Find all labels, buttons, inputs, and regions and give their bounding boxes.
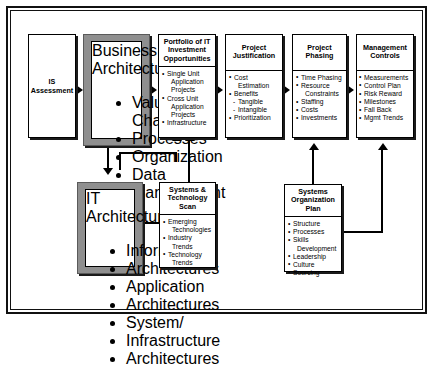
list-item: Application [126, 278, 134, 296]
list-item: Milestones [359, 98, 411, 106]
list-item: Culture [288, 261, 339, 269]
box-project-phasing[interactable]: Project Phasing Time Phasing Resource Co… [292, 34, 347, 138]
list-item: Infrastructure [126, 332, 134, 350]
portfolio-title: Portfolio of IT Investment Opportunities [159, 35, 215, 67]
business-architectures-title: Business Architectures [92, 42, 141, 78]
list-item: Measurements [359, 74, 411, 82]
list-item: Structure [288, 220, 339, 228]
list-item: Technology [163, 251, 213, 259]
list-item: Intangible [229, 106, 280, 114]
connector-line-sop-up [312, 150, 314, 184]
list-item: Control Plan [359, 82, 411, 90]
list-item: Architectures [126, 296, 134, 314]
connector-arrow-portfolio-to-justification [216, 85, 223, 95]
list-item: Application [162, 103, 213, 111]
it-architectures-list: Information Architectures Application Ar… [86, 242, 134, 368]
connector-line-sop-right [344, 231, 383, 233]
portfolio-list: Single Unit Application Projects Cross U… [159, 67, 215, 129]
project-phasing-list: Time Phasing Resource Constraints Staffi… [293, 71, 346, 125]
list-item: Industry [163, 234, 213, 242]
list-item: Prioritization [229, 114, 280, 122]
connector-line-sop-to-controls-up [381, 150, 383, 233]
systems-org-plan-list: Structure Processes Skills Development L… [285, 217, 341, 279]
list-item: Resource [296, 82, 344, 90]
list-item: Architectures [126, 260, 134, 278]
list-item: Organization [132, 148, 141, 166]
list-item: Time Phasing [296, 74, 344, 82]
box-business-architectures[interactable]: Business Architectures Value Chains Proc… [83, 34, 150, 146]
list-item: Costs [296, 106, 344, 114]
connector-arrow-is-to-business [76, 85, 83, 95]
list-item: Leadership [288, 253, 339, 261]
it-architectures-title: IT Architectures [86, 190, 134, 226]
connector-arrow-justification-to-phasing [283, 85, 290, 95]
list-item: Single Unit [162, 70, 213, 78]
list-item: Processes [132, 130, 141, 148]
connector-arrow-phasing-to-controls [347, 85, 354, 95]
list-item: Emerging [163, 218, 213, 226]
box-management-controls[interactable]: Management Controls Measurements Control… [356, 34, 414, 138]
list-item: Projects [162, 86, 213, 94]
tech-scan-list: Emerging Technologies Industry Trends Te… [160, 215, 215, 269]
connector-arrow-sop-to-controls [378, 143, 388, 150]
list-item: Technologies [163, 226, 213, 234]
list-item: Application [162, 78, 213, 86]
project-justification-title: Project Justification [226, 35, 282, 71]
project-phasing-title: Project Phasing [293, 35, 346, 71]
list-item: Risk Reward [359, 90, 411, 98]
list-item: Skills [288, 236, 339, 244]
project-justification-list: Cost Estimation Benefits Tangible Intang… [226, 71, 282, 125]
list-item: Staffing [296, 98, 344, 106]
box-portfolio-it-investment[interactable]: Portfolio of IT Investment Opportunities… [158, 34, 216, 138]
box-systems-organization-plan[interactable]: Systems Organization Plan Structure Proc… [284, 184, 342, 272]
box-project-justification[interactable]: Project Justification Cost Estimation Be… [225, 34, 283, 138]
list-item: Development [288, 245, 339, 253]
list-item: Tangible [229, 98, 280, 106]
list-item: Trends [163, 243, 213, 251]
connector-arrow-sop-to-phasing [309, 143, 319, 150]
management-controls-list: Measurements Control Plan Risk Reward Mi… [357, 71, 413, 125]
list-item: System/ [126, 314, 134, 332]
list-item: Mgmt Trends [359, 114, 411, 122]
list-item: Fall Back [359, 106, 411, 114]
list-item: Investments [296, 114, 344, 122]
list-item: Value Chains [132, 94, 141, 130]
box-it-architectures[interactable]: IT Architectures Information Architectur… [77, 182, 143, 274]
list-item: Cost [229, 74, 280, 82]
list-item: Constraints [296, 90, 344, 98]
systems-org-plan-title: Systems Organization Plan [285, 185, 341, 217]
list-item: Estimation [229, 82, 280, 90]
list-item: Cross Unit [162, 95, 213, 103]
list-item: Information [126, 242, 134, 260]
list-item: Sourcing [288, 269, 339, 277]
business-architectures-inner: Business Architectures Value Chains Proc… [91, 41, 142, 139]
list-item: Trends [163, 259, 213, 267]
list-item: Projects [162, 111, 213, 119]
list-item: Processes [288, 228, 339, 236]
list-item: Infrastructure [162, 119, 213, 127]
box-is-assessment[interactable]: IS Assessment [28, 34, 76, 138]
management-controls-title: Management Controls [357, 35, 413, 71]
is-assessment-title: IS Assessment [31, 77, 73, 95]
list-item: Benefits [229, 90, 280, 98]
tech-scan-title: Systems & Technology Scan [160, 183, 215, 215]
it-architectures-inner: IT Architectures Information Architectur… [85, 189, 135, 267]
box-systems-technology-scan[interactable]: Systems & Technology Scan Emerging Techn… [159, 182, 216, 268]
list-item: Architectures [126, 350, 134, 368]
